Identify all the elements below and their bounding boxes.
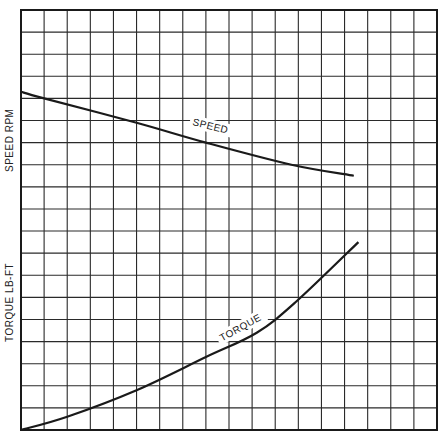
torque-axis-label: TORQUE LB-FT bbox=[4, 263, 15, 342]
speed-curve-label: SPEED bbox=[192, 116, 230, 135]
grid bbox=[21, 10, 437, 430]
speed-axis-label: SPEED RPM bbox=[4, 109, 15, 172]
torque-curve-label: TORQUE bbox=[218, 312, 263, 344]
torque-curve bbox=[21, 242, 358, 430]
speed-curve bbox=[21, 92, 354, 176]
speed-torque-chart: SPEED TORQUE bbox=[0, 0, 448, 443]
